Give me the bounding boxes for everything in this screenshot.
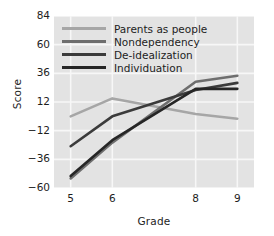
- legend-item: De-idealization: [62, 48, 212, 61]
- y-tick-label: −36: [6, 152, 50, 164]
- x-tick-label: 6: [97, 192, 127, 204]
- y-tick-label: −12: [6, 124, 50, 136]
- chart-legend: Parents as peopleNondependencyDe-idealiz…: [62, 22, 212, 74]
- y-axis-title: Score: [11, 64, 23, 124]
- legend-label: De-idealization: [114, 49, 193, 61]
- legend-item: Parents as people: [62, 22, 212, 35]
- y-tick-label: 60: [6, 38, 50, 50]
- x-tick-label: 8: [181, 192, 211, 204]
- legend-swatch: [62, 66, 106, 69]
- x-tick-label: 5: [56, 192, 86, 204]
- legend-label: Nondependency: [114, 36, 200, 48]
- line-chart: 84603612−12−36−60 5689 Score Grade Paren…: [0, 0, 274, 236]
- legend-swatch: [62, 27, 106, 30]
- legend-label: Parents as people: [114, 23, 207, 35]
- legend-label: Individuation: [114, 62, 182, 74]
- y-axis-ticks: 84603612−12−36−60: [0, 0, 50, 236]
- y-tick-label: 84: [6, 9, 50, 21]
- y-tick-label: −60: [6, 181, 50, 193]
- x-tick-label: 9: [222, 192, 252, 204]
- legend-item: Individuation: [62, 61, 212, 74]
- legend-swatch: [62, 53, 106, 56]
- legend-swatch: [62, 40, 106, 43]
- legend-item: Nondependency: [62, 35, 212, 48]
- x-axis-title: Grade: [54, 215, 254, 227]
